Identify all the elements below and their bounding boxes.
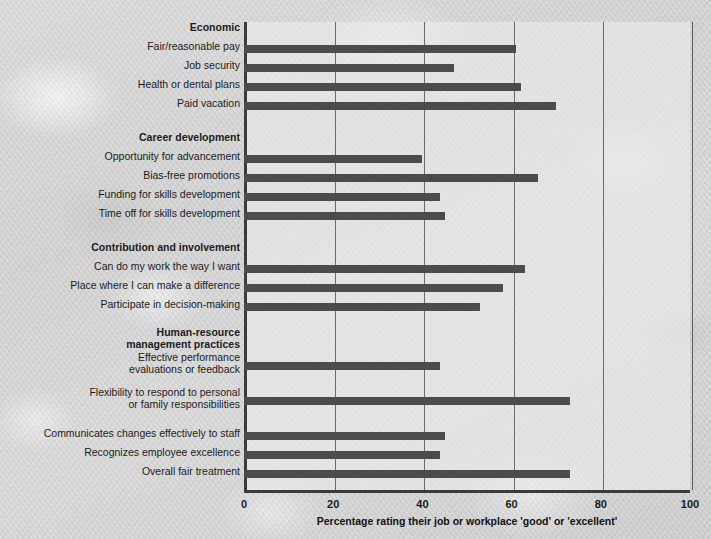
y-category-label: Recognizes employee excellence bbox=[2, 447, 240, 459]
y-category-label: Communicates changes effectively to staf… bbox=[2, 428, 240, 440]
gridline-20 bbox=[335, 22, 336, 490]
y-category-label: Effective performance evaluations or fee… bbox=[2, 352, 240, 375]
y-category-label: Time off for skills development bbox=[2, 208, 240, 220]
plot-area bbox=[244, 22, 690, 493]
x-axis-ticks: 020406080100 bbox=[244, 498, 690, 514]
y-category-label: Flexibility to respond to personal or fa… bbox=[2, 387, 240, 410]
y-group-label: Career development bbox=[2, 132, 240, 144]
gridline-40 bbox=[424, 22, 425, 490]
x-tick-label-100: 100 bbox=[681, 498, 699, 510]
y-category-label: Fair/reasonable pay bbox=[2, 41, 240, 53]
y-category-label: Place where I can make a difference bbox=[2, 280, 240, 292]
y-category-label: Health or dental plans bbox=[2, 79, 240, 91]
y-group-label: Economic bbox=[2, 22, 240, 34]
y-category-label: Funding for skills development bbox=[2, 189, 240, 201]
y-category-label: Can do my work the way I want bbox=[2, 261, 240, 273]
y-group-label: Human-resource management practices bbox=[2, 327, 240, 350]
x-tick-label-20: 20 bbox=[327, 498, 339, 510]
x-axis-title: Percentage rating their job or workplace… bbox=[244, 515, 690, 527]
y-category-label: Paid vacation bbox=[2, 98, 240, 110]
y-category-label: Participate in decision-making bbox=[2, 299, 240, 311]
y-category-label: Job security bbox=[2, 60, 240, 72]
x-tick-label-0: 0 bbox=[241, 498, 247, 510]
x-tick-label-60: 60 bbox=[505, 498, 517, 510]
chart-figure: EconomicFair/reasonable payJob securityH… bbox=[0, 0, 711, 539]
y-axis-labels: EconomicFair/reasonable payJob securityH… bbox=[0, 0, 240, 539]
y-category-label: Overall fair treatment bbox=[2, 466, 240, 478]
gridline-80 bbox=[603, 22, 604, 490]
y-category-label: Bias-free promotions bbox=[2, 170, 240, 182]
y-category-label: Opportunity for advancement bbox=[2, 151, 240, 163]
x-tick-label-80: 80 bbox=[595, 498, 607, 510]
x-tick-label-40: 40 bbox=[416, 498, 428, 510]
gridline-100 bbox=[692, 22, 693, 490]
gridline-60 bbox=[514, 22, 515, 490]
y-group-label: Contribution and involvement bbox=[2, 242, 240, 254]
